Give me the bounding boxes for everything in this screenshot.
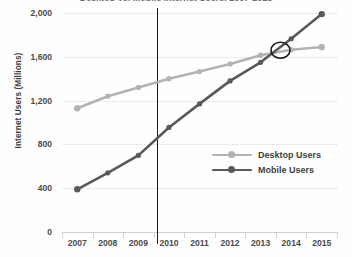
legend-item-desktop[interactable]: Desktop Users [212,147,321,162]
data-point [258,53,263,58]
data-point [258,60,263,65]
data-point [166,76,171,81]
series-layer [0,0,352,257]
data-point [136,85,141,90]
data-point [227,78,232,83]
line-chart: Desktop vs. Mobile Internet Users, 2007-… [0,0,352,257]
data-point [105,170,110,175]
data-point [136,153,141,158]
data-point [197,69,202,74]
legend-label-desktop: Desktop Users [258,150,321,160]
legend-swatch-desktop [212,150,252,160]
legend-label-mobile: Mobile Users [258,165,314,175]
data-point [74,105,80,111]
data-point [289,36,294,41]
data-point [319,11,325,17]
data-point [74,186,80,192]
series-line-desktop-users [77,47,321,108]
legend-item-mobile[interactable]: Mobile Users [212,162,321,177]
legend-swatch-mobile [212,165,252,175]
data-point [166,125,171,130]
data-point [227,61,232,66]
data-point [319,44,325,50]
data-point [197,101,202,106]
data-point [105,94,110,99]
legend: Desktop Users Mobile Users [212,147,321,177]
